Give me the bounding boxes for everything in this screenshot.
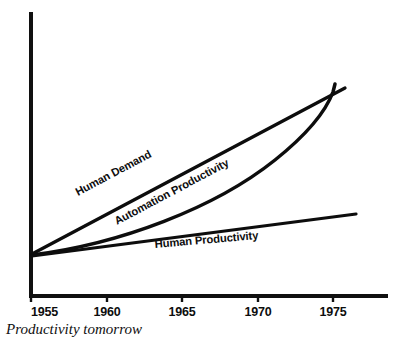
x-tick-label-1955: 1955 [31,305,58,319]
chart-figure: Human Demand Automation Productivity Hum… [0,0,397,338]
series-line-human-demand [32,88,345,254]
series-label-human-demand: Human Demand [73,148,153,198]
x-tick-label-1975: 1975 [319,305,346,319]
x-tick-label-1970: 1970 [244,305,271,319]
figure-caption: Productivity tomorrow [5,321,142,337]
x-tick-label-1960: 1960 [93,305,120,319]
chart-canvas: Human Demand Automation Productivity Hum… [0,0,397,338]
x-tick-label-1965: 1965 [168,305,195,319]
